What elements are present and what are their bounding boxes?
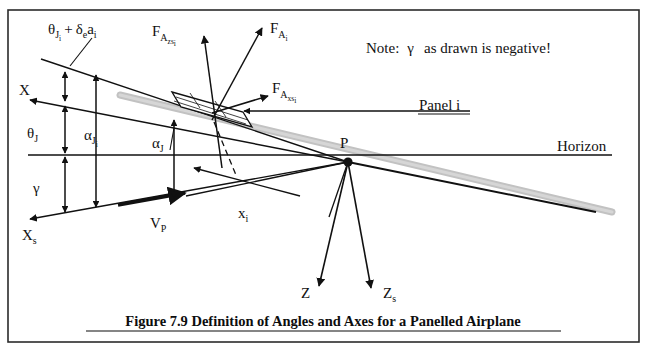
vp-sub: P [161,223,167,234]
faxsi-sub3: i [294,96,296,105]
figure-container: θJi+δeai X θJ γ Xs αJi αJ [0,0,647,352]
note-prefix: Note: [366,40,399,56]
delta-glyph: δ [76,21,83,37]
label-panel-i: Panel i [419,97,460,113]
note-annotation: Note:γas drawn is negative! [366,40,551,56]
figure-border [8,10,639,342]
label-x-axis: X [19,82,30,98]
note-gamma-symbol: γ [406,40,414,56]
fai-sub2: i [286,34,288,43]
note-text: as drawn is negative! [424,40,551,56]
theta-j-sub: J [34,133,38,144]
faxsi-glyph: F [272,80,280,96]
theta-ji-glyph: θ [48,21,55,37]
point-p-marker [343,157,352,166]
a-sub: i [94,29,97,40]
fazsi-sub3: i [174,39,176,48]
caption-text: Figure 7.9 Definition of Angles and Axes… [125,313,521,329]
fai-glyph: F [270,20,278,36]
fazsi-glyph: F [152,23,160,39]
alpha-ji-glyph: α [84,127,92,143]
theta-ji-sub2: i [59,34,61,43]
label-gamma: γ [32,180,40,196]
zs-sub: s [392,293,396,304]
figure-caption: Figure 7.9 Definition of Angles and Axes… [86,313,561,331]
alpha-j-glyph: α [152,135,160,151]
xi-sub: i [246,213,249,224]
plus-sign: + [64,21,72,37]
xs-glyph: X [22,227,33,243]
label-point-p: P [340,135,348,151]
zs-glyph: Z [383,285,392,301]
label-z-axis: Z [301,285,310,301]
diagram-canvas: θJi+δeai X θJ γ Xs αJi αJ [0,0,647,352]
svg-text:Note:γas drawn is negative!: Note:γas drawn is negative! [366,40,551,56]
alpha-ji-sub2: i [96,140,98,149]
vp-glyph: V [150,215,161,231]
theta-j-glyph: θ [27,125,34,141]
xs-sub: s [33,235,37,246]
label-horizon: Horizon [557,138,607,154]
alpha-j-sub: J [160,143,164,154]
